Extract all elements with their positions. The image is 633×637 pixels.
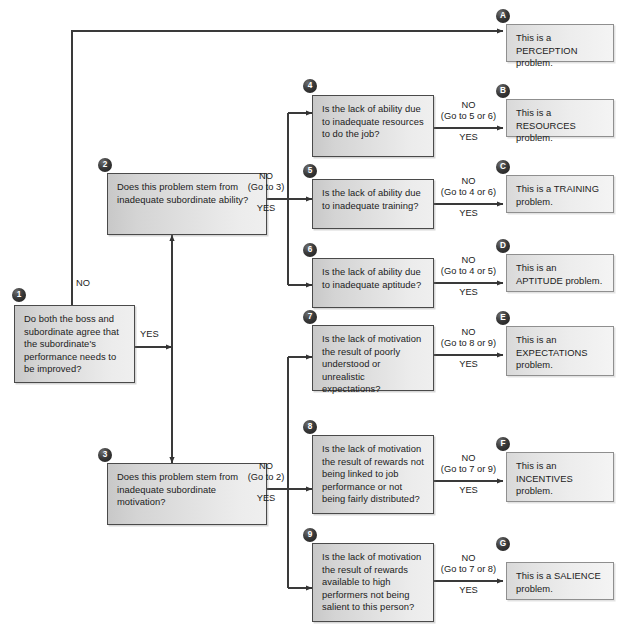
label-9-yes: YES (434, 585, 503, 597)
answer-box-aptitude[interactable]: This is an APTITUDE problem. (506, 254, 614, 292)
badge-c: C (496, 160, 510, 174)
label-5-no: NO (434, 176, 503, 188)
badge-q4: 4 (303, 79, 317, 93)
label-2-no-goto: (Go to 3) (236, 182, 296, 194)
label-3-no: NO (236, 461, 296, 473)
label-9-no-goto: (Go to 7 or 8) (434, 564, 503, 576)
label-7-no: NO (434, 327, 503, 339)
badge-e: E (496, 311, 510, 325)
label-4-yes: YES (434, 132, 503, 144)
label-7-no-goto: (Go to 8 or 9) (434, 338, 503, 350)
badge-f: F (496, 437, 510, 451)
badge-q6: 6 (303, 243, 317, 257)
answer-box-perception[interactable]: This is a PERCEPTION problem. (506, 24, 614, 62)
badge-b: B (496, 84, 510, 98)
label-4-no-goto: (Go to 5 or 6) (434, 111, 503, 123)
label-4-no: NO (434, 100, 503, 112)
label-6-yes: YES (434, 287, 503, 299)
label-6-no: NO (434, 255, 503, 267)
question-box-5[interactable]: Is the lack of ability due to inadequate… (312, 179, 434, 229)
question-box-4[interactable]: Is the lack of ability due to inadequate… (312, 95, 434, 157)
answer-box-incentives[interactable]: This is an INCENTIVES problem. (506, 452, 614, 502)
badge-q8: 8 (303, 420, 317, 434)
flowchart-canvas: 1 Do both the boss and subordinate agree… (0, 0, 633, 637)
badge-q3: 3 (98, 448, 112, 462)
answer-box-salience[interactable]: This is a SALIENCE problem. (506, 562, 614, 600)
label-8-no-goto: (Go to 7 or 9) (434, 464, 503, 476)
badge-q2: 2 (98, 158, 112, 172)
badge-q1: 1 (12, 288, 26, 302)
label-7-yes: YES (434, 359, 503, 371)
label-3-yes: YES (236, 493, 296, 505)
question-box-8[interactable]: Is the lack of motivation the result of … (312, 435, 434, 514)
label-3-no-goto: (Go to 2) (236, 472, 296, 484)
answer-box-training[interactable]: This is a TRAINING problem. (506, 175, 614, 213)
answer-box-expectations[interactable]: This is an EXPECTATIONS problem. (506, 326, 614, 376)
badge-q5: 5 (303, 164, 317, 178)
answer-box-resources[interactable]: This is a RESOURCES problem. (506, 99, 614, 137)
label-1-yes: YES (140, 329, 159, 341)
label-9-no: NO (434, 553, 503, 565)
label-8-yes: YES (434, 485, 503, 497)
question-box-1[interactable]: Do both the boss and subordinate agree t… (14, 305, 135, 383)
label-2-no: NO (236, 171, 296, 183)
badge-d: D (496, 239, 510, 253)
label-5-no-goto: (Go to 4 or 6) (434, 187, 503, 199)
badge-q9: 9 (303, 528, 317, 542)
question-box-6[interactable]: Is the lack of ability due to inadequate… (312, 258, 434, 308)
badge-q7: 7 (303, 310, 317, 324)
label-1-no: NO (76, 278, 90, 290)
badge-g: G (496, 537, 510, 551)
question-box-9[interactable]: Is the lack of motivation the result of … (312, 543, 434, 622)
badge-a: A (496, 9, 510, 23)
label-5-yes: YES (434, 208, 503, 220)
label-2-yes: YES (236, 203, 296, 215)
label-6-no-goto: (Go to 4 or 5) (434, 266, 503, 278)
label-8-no: NO (434, 453, 503, 465)
question-box-7[interactable]: Is the lack of motivation the result of … (312, 325, 434, 391)
